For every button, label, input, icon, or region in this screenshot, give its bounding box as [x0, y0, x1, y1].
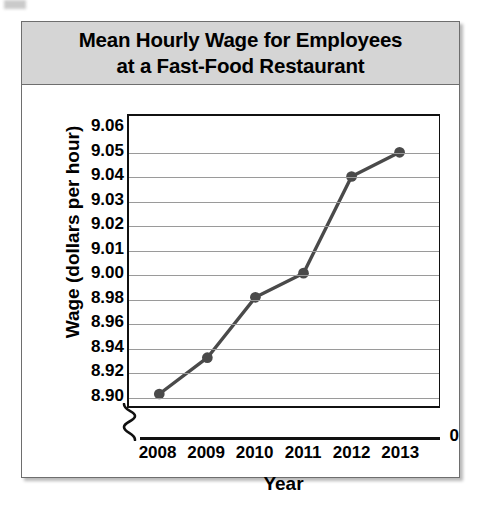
data-point-marker [202, 352, 213, 363]
gridline [129, 373, 439, 374]
y-axis-tick-label: 9.00 [91, 263, 124, 283]
y-axis-tick-label: 9.06 [91, 116, 124, 136]
gridline [129, 177, 439, 178]
y-axis-tick-label: 8.94 [91, 337, 124, 357]
data-point-marker [250, 292, 261, 303]
x-axis-line [140, 437, 440, 440]
gridline [129, 300, 439, 301]
line-series [129, 116, 439, 406]
axis-break-icon [121, 403, 143, 441]
gridline [129, 202, 439, 203]
chart-title-band: Mean Hourly Wage for Employees at a Fast… [22, 22, 459, 85]
chart-card: Mean Hourly Wage for Employees at a Fast… [21, 21, 460, 478]
y-axis-tick-label: 9.01 [91, 239, 124, 259]
x-axis-title: Year [127, 473, 440, 495]
plot-area [127, 114, 440, 408]
x-axis-tick-label: 2008 [139, 443, 177, 463]
chart-title-line-2: at a Fast-Food Restaurant [117, 53, 365, 79]
x-axis-tick-label: 2013 [381, 443, 419, 463]
data-point-marker [298, 268, 309, 279]
gridline [129, 275, 439, 276]
x-axis-tick-label: 2012 [333, 443, 371, 463]
chart-title-line-1: Mean Hourly Wage for Employees [79, 27, 403, 53]
y-axis-tick-label: 8.98 [91, 288, 124, 308]
y-axis-tick-label: 8.92 [91, 361, 124, 381]
gridline [129, 398, 439, 399]
series-line [159, 152, 399, 394]
y-axis-tick-labels: 9.069.059.049.039.029.019.008.988.968.94… [60, 114, 124, 408]
y-axis-tick-label: 9.03 [91, 190, 124, 210]
y-axis-tick-label: 9.02 [91, 214, 124, 234]
chart-body: Wage (dollars per hour) 9.069.059.049.03… [22, 85, 459, 477]
x-axis-tick-label: 2009 [187, 443, 225, 463]
y-axis-tick-label: 8.96 [91, 312, 124, 332]
y-axis-zero-label: 0 [450, 426, 459, 446]
y-axis-tick-label: 9.05 [91, 141, 124, 161]
gridline [129, 153, 439, 154]
gridline [129, 226, 439, 227]
gridline [129, 324, 439, 325]
gridline [129, 349, 439, 350]
x-axis-tick-labels: 200820092010201120122013 [127, 443, 440, 467]
scan-artifact [4, 0, 26, 9]
x-axis-tick-label: 2010 [236, 443, 274, 463]
x-axis-tick-label: 2011 [285, 443, 322, 463]
y-axis-tick-label: 8.90 [91, 386, 124, 406]
y-axis-tick-label: 9.04 [91, 165, 124, 185]
gridline [129, 251, 439, 252]
